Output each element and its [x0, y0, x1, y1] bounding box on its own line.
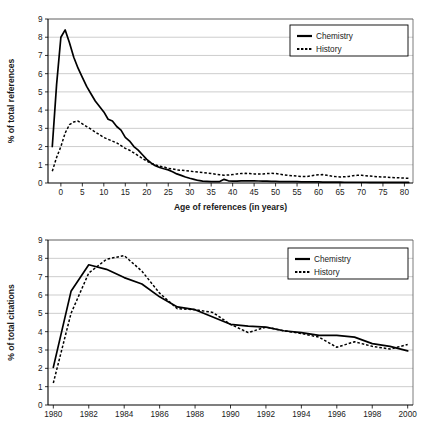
y-axis-title: % of total citations — [6, 284, 16, 361]
y-tick-label: 1 — [38, 161, 43, 170]
x-tick-label: 1990 — [221, 410, 240, 419]
x-tick-label: 55 — [293, 188, 303, 197]
x-tick-label: 1992 — [257, 410, 276, 419]
chart-references-by-age: 0123456789051015202530354045505560657075… — [0, 0, 428, 222]
x-axis-title: Age of references (in years) — [174, 202, 287, 212]
x-tick-label: 1998 — [363, 410, 382, 419]
y-tick-label: 6 — [38, 70, 43, 79]
y-tick-label: 3 — [38, 346, 43, 355]
x-tick-label: 1986 — [151, 410, 170, 419]
x-tick-label: 50 — [271, 188, 281, 197]
y-tick-label: 6 — [38, 291, 43, 300]
x-tick-label: 70 — [357, 188, 367, 197]
x-tick-label: 1982 — [80, 410, 99, 419]
legend-label-history: History — [314, 268, 340, 277]
x-tick-label: 35 — [207, 188, 217, 197]
x-tick-label: 1980 — [44, 410, 63, 419]
y-tick-label: 2 — [38, 143, 43, 152]
x-tick-label: 40 — [228, 188, 238, 197]
legend-label-chemistry: Chemistry — [314, 255, 352, 264]
x-tick-label: 65 — [335, 188, 345, 197]
x-tick-label: 15 — [121, 188, 131, 197]
legend-label-chemistry: Chemistry — [316, 32, 354, 41]
figure-two-line-charts: 0123456789051015202530354045505560657075… — [0, 0, 428, 447]
x-tick-label: 10 — [99, 188, 109, 197]
x-tick-label: 5 — [80, 188, 85, 197]
x-tick-label: 2000 — [399, 410, 418, 419]
y-tick-label: 5 — [38, 309, 43, 318]
references-by-age-plot: 0123456789051015202530354045505560657075… — [0, 0, 428, 222]
x-tick-label: 75 — [378, 188, 388, 197]
x-tick-label: 30 — [185, 188, 195, 197]
citations-by-year-plot: 0123456789198019821984198619881990199219… — [0, 222, 428, 447]
y-tick-label: 4 — [38, 328, 43, 337]
y-tick-label: 8 — [38, 33, 43, 42]
y-tick-label: 7 — [38, 51, 43, 60]
x-tick-label: 25 — [164, 188, 174, 197]
y-tick-label: 8 — [38, 254, 43, 263]
y-tick-label: 2 — [38, 364, 43, 373]
x-tick-label: 1996 — [328, 410, 347, 419]
x-tick-label: 45 — [250, 188, 260, 197]
x-tick-label: 1988 — [186, 410, 205, 419]
y-tick-label: 9 — [38, 236, 43, 245]
y-axis-title: % of total references — [6, 59, 16, 144]
series-line-chemistry — [53, 265, 407, 368]
x-tick-label: 1984 — [115, 410, 134, 419]
y-tick-label: 7 — [38, 273, 43, 282]
y-tick-label: 3 — [38, 124, 43, 133]
x-tick-label: 1994 — [292, 410, 311, 419]
y-tick-label: 5 — [38, 88, 43, 97]
y-tick-label: 4 — [38, 106, 43, 115]
x-tick-label: 60 — [314, 188, 324, 197]
x-tick-label: 20 — [142, 188, 152, 197]
y-tick-label: 0 — [38, 179, 43, 188]
y-tick-label: 9 — [38, 15, 43, 24]
y-tick-label: 0 — [38, 401, 43, 410]
y-tick-label: 1 — [38, 383, 43, 392]
chart-citations-by-year: 0123456789198019821984198619881990199219… — [0, 222, 428, 447]
x-tick-label: 80 — [400, 188, 410, 197]
series-line-history — [52, 121, 408, 178]
x-tick-label: 0 — [59, 188, 64, 197]
legend-label-history: History — [316, 45, 342, 54]
